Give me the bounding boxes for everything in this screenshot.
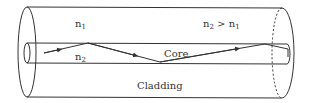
index-condition-label: n2 > n1: [203, 19, 240, 31]
cladding-index-label: n1: [75, 19, 86, 31]
core-top-edge: [27, 43, 287, 44]
cladding-left-end: [18, 7, 36, 97]
fiber-diagram: n1 n2 n2 > n1 Core Cladding: [0, 0, 313, 103]
label-sub: 1: [235, 23, 239, 31]
core-bottom-edge: [27, 63, 287, 64]
cladding-bottom-edge: [27, 97, 282, 98]
cladding-label: Cladding: [137, 81, 183, 91]
core-label: Core: [164, 49, 188, 59]
label-sub: 2: [81, 56, 85, 64]
cladding-top-edge: [27, 7, 282, 8]
core-left-end: [24, 43, 30, 63]
cladding-right-end-hidden: [272, 8, 282, 98]
label-operator: >: [214, 18, 229, 29]
core-index-label: n2: [75, 52, 86, 64]
label-sub: 1: [81, 23, 85, 31]
